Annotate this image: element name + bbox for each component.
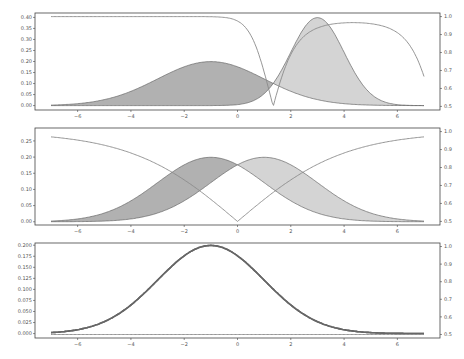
y2-tick-label: 1.0 (444, 128, 452, 134)
y-tick-label: 0.40 (21, 14, 32, 20)
y2-tick-label: 0.7 (444, 67, 452, 73)
y-tick-label: 0.15 (21, 170, 32, 176)
x-tick-label: 2 (289, 113, 292, 119)
x-tick-label: 2 (289, 341, 292, 347)
chart-panel-1: −6−4−202460.000.050.100.150.200.250.300.… (21, 13, 452, 119)
x-tick-label: −4 (127, 341, 134, 347)
y2-tick-label: 1.0 (444, 243, 452, 249)
figure: −6−4−202460.000.050.100.150.200.250.300.… (0, 0, 464, 359)
x-tick-label: 0 (236, 113, 239, 119)
x-tick-label: 6 (396, 113, 399, 119)
y2-tick-label: 0.8 (444, 49, 452, 55)
x-tick-label: 4 (342, 341, 345, 347)
y-tick-label: 0.175 (18, 253, 32, 259)
y-tick-label: 0.000 (18, 330, 32, 336)
x-tick-label: −6 (74, 113, 81, 119)
y-tick-label: 0.125 (18, 275, 32, 281)
y-tick-label: 0.00 (21, 218, 32, 224)
x-tick-label: −4 (127, 228, 134, 234)
x-tick-label: −2 (181, 341, 188, 347)
x-tick-label: 0 (236, 341, 239, 347)
y2-tick-label: 0.8 (444, 278, 452, 284)
y-tick-label: 0.050 (18, 308, 32, 314)
y-tick-label: 0.05 (21, 91, 32, 97)
y-tick-label: 0.200 (18, 242, 32, 248)
y2-tick-label: 1.0 (444, 13, 452, 19)
x-tick-label: −6 (74, 341, 81, 347)
y-tick-label: 0.00 (21, 102, 32, 108)
x-tick-label: −4 (127, 113, 134, 119)
y2-tick-label: 0.6 (444, 85, 452, 91)
chart-panel-3: −6−4−202460.0000.0250.0500.0750.1000.125… (18, 242, 452, 347)
y-tick-label: 0.20 (21, 58, 32, 64)
y-tick-label: 0.05 (21, 202, 32, 208)
y-tick-label: 0.10 (21, 80, 32, 86)
x-tick-label: 4 (342, 228, 345, 234)
y2-tick-label: 0.7 (444, 296, 452, 302)
y-tick-label: 0.35 (21, 25, 32, 31)
y2-tick-label: 0.5 (444, 218, 452, 224)
y-tick-label: 0.10 (21, 186, 32, 192)
y-tick-label: 0.20 (21, 154, 32, 160)
y-tick-label: 0.15 (21, 69, 32, 75)
x-tick-label: 6 (396, 228, 399, 234)
x-tick-label: 0 (236, 228, 239, 234)
y2-tick-label: 0.6 (444, 200, 452, 206)
y2-tick-label: 0.7 (444, 182, 452, 188)
x-tick-label: 6 (396, 341, 399, 347)
x-tick-label: −2 (181, 113, 188, 119)
y-tick-label: 0.075 (18, 297, 32, 303)
density-line-2 (51, 245, 424, 333)
y2-tick-label: 0.9 (444, 261, 452, 267)
y2-tick-label: 0.9 (444, 31, 452, 37)
y2-tick-label: 0.5 (444, 103, 452, 109)
y2-tick-label: 0.8 (444, 164, 452, 170)
y-tick-label: 0.25 (21, 138, 32, 144)
y-tick-label: 0.150 (18, 264, 32, 270)
y2-tick-label: 0.6 (444, 314, 452, 320)
axes-frame (35, 128, 440, 225)
y2-tick-label: 0.9 (444, 146, 452, 152)
y-tick-label: 0.100 (18, 286, 32, 292)
y-tick-label: 0.25 (21, 47, 32, 53)
y-tick-label: 0.30 (21, 36, 32, 42)
axes-frame (35, 243, 440, 338)
x-tick-label: −2 (181, 228, 188, 234)
ratio-line (51, 137, 424, 222)
y-tick-label: 0.025 (18, 319, 32, 325)
x-tick-label: −6 (74, 228, 81, 234)
x-tick-label: 2 (289, 228, 292, 234)
chart-panel-2: −6−4−202460.000.050.100.150.200.250.50.6… (21, 128, 452, 234)
y2-tick-label: 0.5 (444, 331, 452, 337)
x-tick-label: 4 (342, 113, 345, 119)
